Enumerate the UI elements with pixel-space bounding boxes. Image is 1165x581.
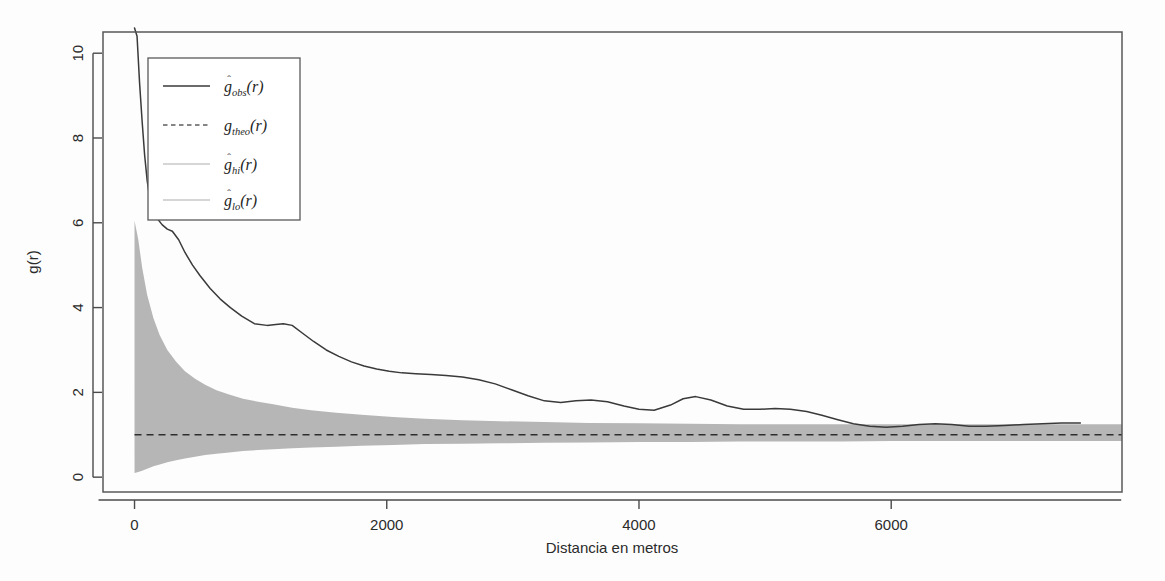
y-axis-title: g(r) (24, 250, 41, 273)
x-tick-label: 6000 (875, 516, 908, 533)
plot-legend[interactable]: ˆgobs(r)gtheo(r)ˆghi(r)ˆglo(r) (148, 58, 300, 220)
pair-correlation-chart: 0200040006000 0246810 Distancia en metro… (0, 0, 1165, 581)
y-tick-label: 2 (69, 388, 86, 396)
y-tick-label: 4 (69, 303, 86, 311)
y-tick-label: 6 (69, 219, 86, 227)
y-tick-label: 0 (69, 473, 86, 481)
x-tick-label: 2000 (370, 516, 403, 533)
x-tick-label: 4000 (622, 516, 655, 533)
x-tick-label: 0 (130, 516, 138, 533)
x-axis-title: Distancia en metros (546, 539, 679, 556)
figure-canvas: 0200040006000 0246810 Distancia en metro… (0, 0, 1165, 581)
x-axis: 0200040006000 (99, 500, 1122, 533)
y-tick-label: 8 (69, 134, 86, 142)
y-tick-label: 10 (69, 45, 86, 62)
y-axis: 0246810 (69, 45, 102, 481)
